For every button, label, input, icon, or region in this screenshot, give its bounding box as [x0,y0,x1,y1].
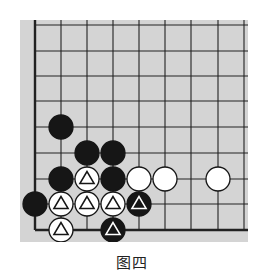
black-stone [49,115,73,139]
black-stone [101,141,125,165]
figure-caption: 图四 [0,251,264,272]
white-stone [206,167,230,191]
white-stone [127,167,151,191]
black-stone [75,141,99,165]
white-stone [153,167,177,191]
board-grid [20,20,248,242]
black-stone [101,167,125,191]
black-stone [49,167,73,191]
go-board [20,20,248,242]
black-stone [23,192,47,216]
